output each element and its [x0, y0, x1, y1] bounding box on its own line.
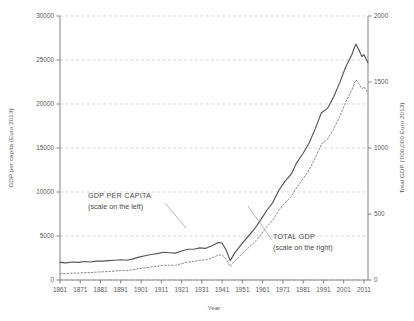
- gdp-chart: 050001000015000200002500030000 050010001…: [0, 0, 414, 321]
- gdp-per-capita-annotation-line1: GDP PER CAPITA: [88, 191, 151, 200]
- total-gdp-annotation-line1: TOTAL GDP: [273, 232, 315, 241]
- y-tick-label: 5000: [40, 232, 55, 239]
- x-tick-label: 1931: [195, 286, 210, 293]
- y-axis-title: GDP per capita (Euro 2013): [7, 108, 14, 187]
- x-tick-label: 1971: [276, 286, 291, 293]
- x-tick-label: 1991: [316, 286, 331, 293]
- chart-svg: 050001000015000200002500030000 050010001…: [0, 0, 414, 321]
- y-tick-label: 25000: [36, 56, 54, 63]
- x-tick-label: 1921: [174, 286, 189, 293]
- y2-tick-label: 1000: [374, 144, 389, 151]
- y2-tick-label: 1500: [374, 78, 389, 85]
- chart-background: [0, 0, 414, 321]
- y-tick-label: 0: [50, 276, 54, 283]
- total-gdp-annotation-line2: (scale on the right): [273, 243, 333, 252]
- x-tick-label: 1901: [134, 286, 149, 293]
- y-tick-label: 15000: [36, 144, 54, 151]
- x-tick-label: 1961: [256, 286, 271, 293]
- x-tick-label: 1951: [235, 286, 250, 293]
- y2-tick-label: 2000: [374, 12, 389, 19]
- y-tick-label: 30000: [36, 12, 54, 19]
- y2-tick-label: 0: [374, 276, 378, 283]
- y2-tick-label: 500: [374, 210, 385, 217]
- y-tick-label: 20000: [36, 100, 54, 107]
- x-tick-label: 2001: [337, 286, 352, 293]
- y2-axis-title: Total GDP ('000,000 Euro 2013): [398, 103, 405, 194]
- x-tick-label: 1911: [154, 286, 168, 293]
- x-tick-label: 1891: [114, 286, 129, 293]
- x-tick-label: 1981: [296, 286, 311, 293]
- gdp-per-capita-annotation-line2: (scale on the left): [88, 202, 143, 211]
- x-tick-label: 1941: [215, 286, 230, 293]
- x-tick-label: 1861: [53, 286, 68, 293]
- y-tick-label: 10000: [36, 188, 54, 195]
- x-tick-label: 2011: [357, 286, 371, 293]
- x-tick-label: 1871: [73, 286, 88, 293]
- x-tick-label: 1881: [93, 286, 108, 293]
- x-axis-title: Year: [208, 304, 221, 311]
